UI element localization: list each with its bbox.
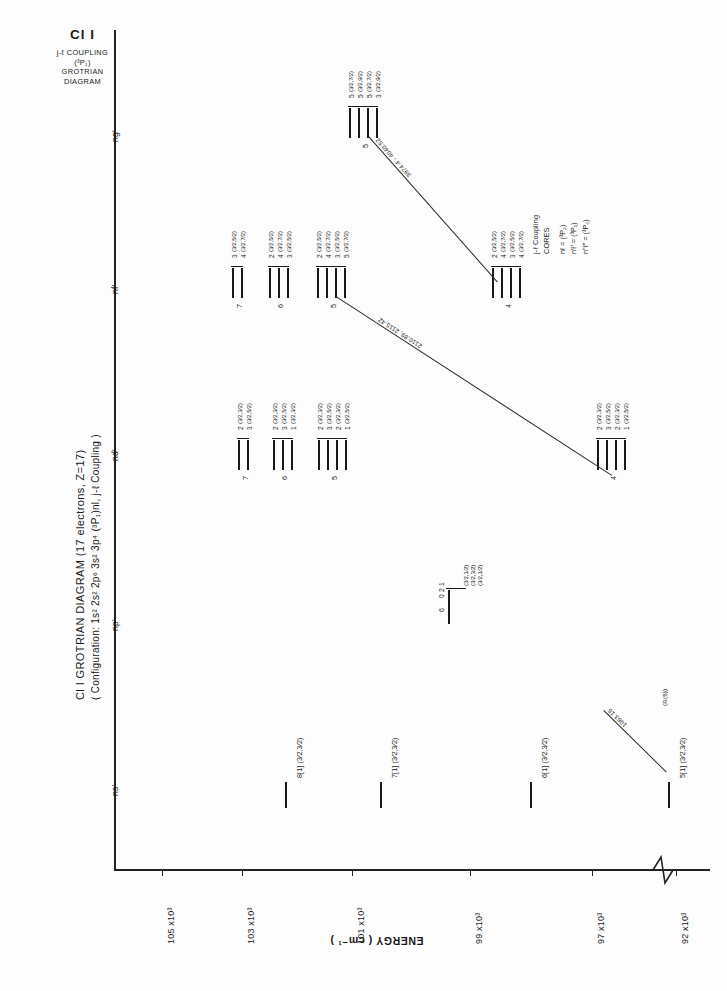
nf-5-j-label-2: (3⁄2,5⁄2) [334, 231, 340, 252]
diagram-type-line-1: GROTRIAN [30, 67, 135, 76]
nd-4-term-value-2: 2 [614, 426, 621, 430]
axis-tick-mark [162, 869, 163, 876]
nf-4-term-value-1: 4 [500, 254, 507, 258]
nd-5-term-bracket [317, 438, 347, 439]
coupling-label: j-ℓ COUPLING [30, 48, 135, 57]
axis-tick-mark [592, 869, 593, 876]
ns-level-line-6 [530, 782, 532, 808]
nf-4-j-label-2: (3⁄2,5⁄2) [509, 231, 515, 252]
nf-5-level-line-2 [335, 268, 337, 298]
np-term-value-0: 1 [438, 582, 445, 586]
axis-tick-label: 99 x10³ [474, 913, 484, 944]
nd-4-principal-quantum-number: 4 [609, 476, 618, 480]
nf-6-level-line-0 [269, 268, 271, 298]
grotrian-diagram-page: Cl I j-ℓ COUPLING (³P₁) GROTRIAN DIAGRAM… [0, 0, 727, 991]
ng-5-principal-quantum-number: 5 [361, 144, 370, 148]
nd-5-term-value-1: 3 [326, 426, 333, 430]
axis-tick-label: 92 x10³ [680, 913, 690, 944]
nd-5-level-line-3 [345, 440, 347, 470]
transition-wavelength-ng-nf: 3974.4 - 4040.52 [374, 137, 412, 179]
np-j-label-1: (3⁄2,3⁄2) [469, 565, 476, 586]
nd-5-term-value-2: 2 [335, 426, 342, 430]
nd-4-level-line-1 [606, 440, 608, 470]
nd-5-principal-quantum-number: 5 [330, 476, 339, 480]
ns-level-line-8 [285, 782, 287, 808]
axis-tick-mark [676, 869, 677, 876]
nf-7-j-label-1: (3⁄2,7⁄2) [240, 231, 246, 252]
nf-6-j-label-1: (3⁄2,7⁄2) [277, 231, 283, 252]
nd-6-j-label-0: (3⁄2,3⁄2) [272, 403, 278, 424]
transition-secondary-label-ns-transition: (R(5)) [661, 689, 668, 706]
nf-4-level-line-2 [510, 268, 512, 298]
nf-6-principal-quantum-number: 6 [276, 304, 285, 308]
nd-5-level-line-1 [327, 440, 329, 470]
nf-5-level-line-3 [344, 268, 346, 298]
core-label: (³P₁) [30, 58, 135, 67]
nf-4-term-value-0: 2 [491, 254, 498, 258]
nf-4-term-bracket [491, 266, 521, 267]
nd-7-principal-quantum-number: 7 [241, 476, 250, 480]
legend-title-1: j-ℓ Coupling [530, 215, 541, 254]
ng-5-j-label-0: (3⁄2,7⁄2) [348, 71, 354, 92]
nf-6-term-value-2: 3 [286, 254, 293, 258]
np-j-label-0: (3⁄2,1⁄2) [462, 565, 469, 586]
ns-level-label-8: 8[1] (3⁄2,3⁄2) [295, 737, 304, 778]
nd-4-term-bracket [596, 438, 626, 439]
nd-6-principal-quantum-number: 6 [280, 476, 289, 480]
nd-6-level-line-1 [282, 440, 284, 470]
ng-5-level-line-2 [367, 108, 369, 138]
energy-axis-label: ENERGY ( cm⁻¹ ) [330, 935, 424, 947]
cores-legend: j-ℓ Coupling CORES nℓ = (³P₂)n'ℓ' = (³P₁… [530, 215, 591, 254]
nd-4-term-value-1: 3 [605, 426, 612, 430]
nd-7-level-line-1 [247, 440, 249, 470]
ng-5-term-value-2: 5 [366, 94, 373, 98]
legend-core-row-2: n"ℓ" = (³P₀) [580, 215, 591, 254]
nd-4-level-line-3 [624, 440, 626, 470]
axis-tick-label: 103 x10³ [246, 907, 256, 944]
nf-4-j-label-3: (3⁄2,7⁄2) [518, 231, 524, 252]
ns-level-label-7: 7[1] (3⁄2,3⁄2) [390, 737, 399, 778]
nf-6-j-label-2: (3⁄2,5⁄2) [286, 231, 292, 252]
legend-title-2: CORES [541, 215, 552, 254]
nd-6-level-line-2 [291, 440, 293, 470]
column-header-np: np' [110, 619, 120, 631]
nd-6-term-value-1: 3 [281, 426, 288, 430]
ns-level-line-7 [380, 782, 382, 808]
np-term-value-1: 2 [438, 588, 445, 592]
axis-break-symbol [651, 855, 675, 885]
nd-6-term-value-2: 1 [290, 426, 297, 430]
ng-5-level-line-1 [358, 108, 360, 138]
nd-6-level-line-0 [273, 440, 275, 470]
nd-6-term-value-0: 2 [272, 426, 279, 430]
ng-5-term-value-1: 5 [357, 94, 364, 98]
nd-6-j-label-2: (3⁄2,3⁄2) [290, 403, 296, 424]
np-term-value-2: 0 [438, 594, 445, 598]
nd-4-term-value-3: 1 [623, 426, 630, 430]
nd-4-j-label-3: (3⁄2,5⁄2) [623, 403, 629, 424]
nf-6-term-bracket [268, 266, 289, 267]
legend-core-row-1: n'ℓ' = (³P₁) [568, 215, 579, 254]
transition-wavelength-ns-transition: 1063.16 [606, 707, 628, 729]
column-header-ns: ns' [110, 784, 120, 796]
nd-7-term-value-0: 2 [237, 426, 244, 430]
nd-5-j-label-2: (3⁄2,3⁄2) [335, 403, 341, 424]
ng-5-j-label-3: (3⁄2,9⁄2) [375, 71, 381, 92]
nf-4-term-value-2: 3 [509, 254, 516, 258]
title-block: Cl I j-ℓ COUPLING (³P₁) GROTRIAN DIAGRAM [30, 26, 135, 86]
column-header-nd: nd' [110, 449, 120, 461]
axis-tick-label: 105 x10³ [166, 907, 176, 944]
nd-5-level-line-0 [318, 440, 320, 470]
species-title: Cl I [30, 26, 135, 43]
nf-7-level-line-0 [232, 268, 234, 298]
nd-4-j-label-1: (3⁄2,5⁄2) [605, 403, 611, 424]
nd-5-j-label-3: (3⁄2,5⁄2) [344, 403, 350, 424]
nd-6-term-bracket [272, 438, 293, 439]
ng-5-term-value-3: 3 [375, 94, 382, 98]
np-j-label-2: (3⁄2,1⁄2) [476, 565, 483, 586]
nf-4-principal-quantum-number: 4 [504, 304, 513, 308]
nf-6-j-label-0: (3⁄2,5⁄2) [268, 231, 274, 252]
column-header-nf: nf' [110, 284, 120, 294]
nd-4-term-value-0: 2 [596, 426, 603, 430]
nf-5-term-value-1: 4 [325, 254, 332, 258]
np-level-line-3 [448, 602, 450, 624]
